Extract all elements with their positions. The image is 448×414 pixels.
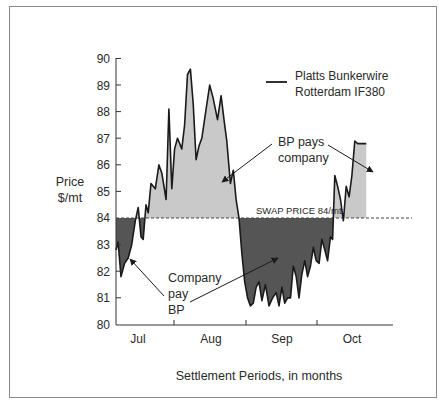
arrow-bp-pays-left — [222, 144, 272, 182]
x-ticks — [174, 320, 317, 325]
ytick-84: 84 — [97, 211, 111, 225]
annotation-company-pay-line2: pay — [168, 287, 189, 301]
arrow-company-pay-left — [130, 259, 164, 296]
ytick-90: 90 — [97, 52, 111, 66]
price-chart: SWAP PRICE 84/mt 90 89 88 87 86 85 84 83… — [0, 0, 448, 414]
swap-price-label: SWAP PRICE 84/mt — [256, 205, 342, 216]
annotation-company-pay-line1: Company — [168, 271, 222, 285]
y-axis-title-line2: $/mt — [58, 191, 83, 205]
ytick-88: 88 — [97, 105, 111, 119]
ytick-89: 89 — [97, 79, 111, 93]
ytick-87: 87 — [97, 132, 111, 146]
month-aug: Aug — [200, 332, 221, 346]
x-axis-title: Settlement Periods, in months — [176, 369, 343, 383]
price-line — [116, 69, 366, 306]
month-jul: Jul — [130, 332, 145, 346]
legend-label-line2: Rotterdam IF380 — [295, 85, 385, 99]
ytick-81: 81 — [97, 291, 111, 305]
ytick-82: 82 — [97, 265, 111, 279]
legend-label-line1: Platts Bunkerwire — [295, 69, 389, 83]
ytick-85: 85 — [97, 185, 111, 199]
annotation-bp-pays-line1: BP pays — [278, 135, 324, 149]
y-tick-labels: 90 89 88 87 86 85 84 83 82 81 80 — [97, 52, 111, 332]
y-axis-title-line1: Price — [56, 175, 85, 189]
month-oct: Oct — [343, 332, 362, 346]
annotation-bp-pays-line2: company — [278, 151, 329, 165]
month-sep: Sep — [271, 332, 293, 346]
x-tick-labels: Jul Aug Sep Oct — [130, 332, 362, 346]
ytick-83: 83 — [97, 238, 111, 252]
ytick-86: 86 — [97, 158, 111, 172]
ytick-80: 80 — [97, 318, 111, 332]
annotation-company-pay-line3: BP — [168, 303, 185, 317]
